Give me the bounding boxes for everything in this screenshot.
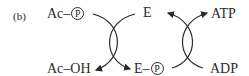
enzyme-prefix: E– [134, 61, 150, 76]
acetate: Ac–OH [47, 62, 91, 76]
panel-label: (b) [13, 9, 26, 23]
acetyl-prefix: Ac– [47, 6, 70, 21]
adp: ADP [210, 62, 238, 76]
arrow-e-to-ep [110, 14, 135, 69]
enzyme: E [143, 6, 152, 20]
acetyl-phosphate: Ac–P [47, 7, 84, 21]
arrow-acp-to-acoh [93, 14, 117, 70]
phosphate-circle-icon: P [71, 7, 84, 20]
phosphate-circle-icon: P [151, 62, 164, 75]
atp: ATP [211, 7, 236, 21]
phospho-enzyme: E–P [134, 62, 164, 76]
